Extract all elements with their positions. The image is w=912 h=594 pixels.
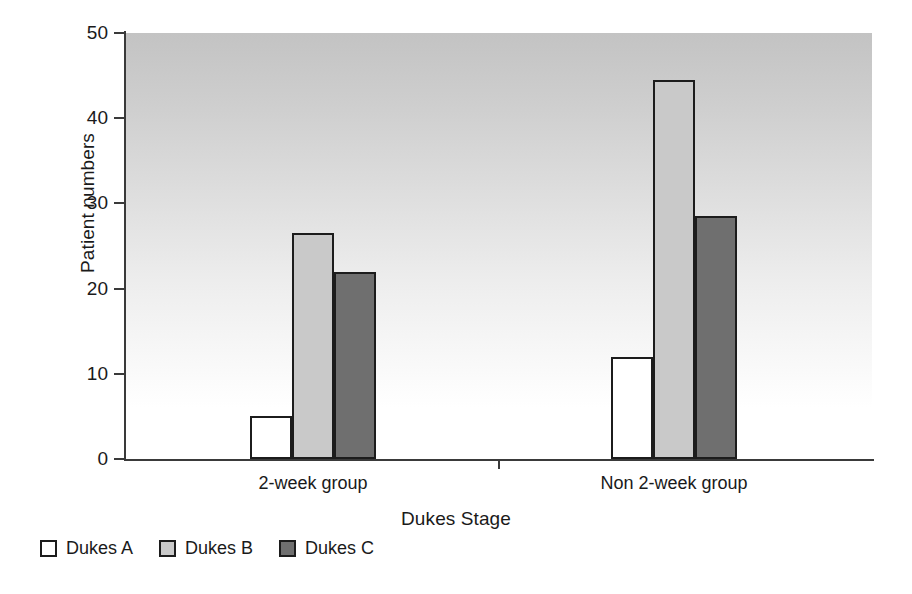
chart-legend: Dukes ADukes BDukes C bbox=[40, 538, 374, 559]
bar-non-2-week-group-dukes-b bbox=[653, 80, 695, 459]
legend-swatch-icon bbox=[279, 540, 296, 557]
y-axis-tick-label: 0 bbox=[56, 449, 108, 468]
legend-label: Dukes A bbox=[66, 538, 133, 559]
y-axis-line bbox=[124, 31, 126, 461]
bar-2-week-group-dukes-b bbox=[292, 233, 334, 459]
legend-label: Dukes B bbox=[185, 538, 253, 559]
y-axis-tick bbox=[114, 373, 125, 375]
bar-non-2-week-group-dukes-a bbox=[611, 357, 653, 459]
plot-area bbox=[126, 33, 872, 459]
x-axis-category-label: Non 2-week group bbox=[524, 473, 824, 494]
legend-item: Dukes A bbox=[40, 538, 133, 559]
x-axis-category-label: 2-week group bbox=[163, 473, 463, 494]
y-axis-tick bbox=[114, 202, 125, 204]
y-axis-tick-label: 30 bbox=[56, 193, 108, 212]
y-axis-tick-label: 50 bbox=[56, 23, 108, 42]
bar-2-week-group-dukes-a bbox=[250, 416, 292, 459]
bar-non-2-week-group-dukes-c bbox=[695, 216, 737, 459]
x-axis-group-separator-tick bbox=[498, 459, 500, 469]
legend-item: Dukes B bbox=[159, 538, 253, 559]
legend-swatch-icon bbox=[159, 540, 176, 557]
y-axis-tick bbox=[114, 117, 125, 119]
y-axis-tick bbox=[114, 458, 125, 460]
bar-2-week-group-dukes-c bbox=[334, 272, 376, 459]
y-axis-tick-label: 40 bbox=[56, 108, 108, 127]
legend-item: Dukes C bbox=[279, 538, 374, 559]
y-axis-tick bbox=[114, 32, 125, 34]
y-axis-tick bbox=[114, 288, 125, 290]
legend-swatch-icon bbox=[40, 540, 57, 557]
x-axis-title: Dukes Stage bbox=[0, 508, 912, 530]
bar-chart-figure: Patient numbers 01020304050 2-week group… bbox=[0, 0, 912, 594]
y-axis-tick-label: 20 bbox=[56, 279, 108, 298]
y-axis-tick-label: 10 bbox=[56, 364, 108, 383]
legend-label: Dukes C bbox=[305, 538, 374, 559]
